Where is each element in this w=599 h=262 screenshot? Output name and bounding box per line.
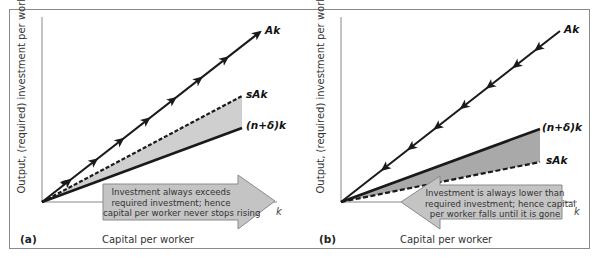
panel-label-a: (a): [20, 233, 37, 245]
x-axis-symbol-a: k: [276, 206, 282, 217]
arrow-annotation-b-line2: required investment; hence capital: [425, 199, 565, 210]
arrow-annotation-b-line1: Investment is always lower than: [425, 188, 565, 199]
curve-label-ak-a: Ak: [265, 24, 280, 36]
curve-label-ak-b: Ak: [564, 23, 579, 35]
arrow-annotation-a-line3: capital per worker never stops rising: [103, 208, 239, 219]
arrow-annotation-a-line1: Investment always exceeds: [103, 187, 239, 198]
curve-label-sak-a: sAk: [246, 88, 267, 100]
y-axis-label-b: Output, (required) investment per worker: [315, 14, 326, 194]
panel-label-b: (b): [319, 233, 336, 245]
figure-graphics: [0, 0, 599, 262]
y-axis-label-a: Output, (required) investment per worker: [16, 14, 27, 194]
x-axis-symbol-b: k: [574, 206, 580, 217]
x-axis-label-a: Capital per worker: [102, 234, 194, 245]
arrow-annotation-a-line2: required investment; hence: [103, 198, 239, 209]
x-axis-label-b: Capital per worker: [400, 234, 492, 245]
arrow-annotation-b: Investment is always lower than required…: [425, 188, 565, 220]
curve-label-sak-b: sAk: [546, 154, 567, 166]
curve-label-ndk-a: (n+δ)k: [246, 119, 286, 131]
arrow-annotation-a: Investment always exceeds required inves…: [103, 187, 239, 219]
arrow-annotation-b-line3: per worker falls until it is gone: [425, 209, 565, 220]
curve-label-ndk-b: (n+δ)k: [542, 121, 582, 133]
